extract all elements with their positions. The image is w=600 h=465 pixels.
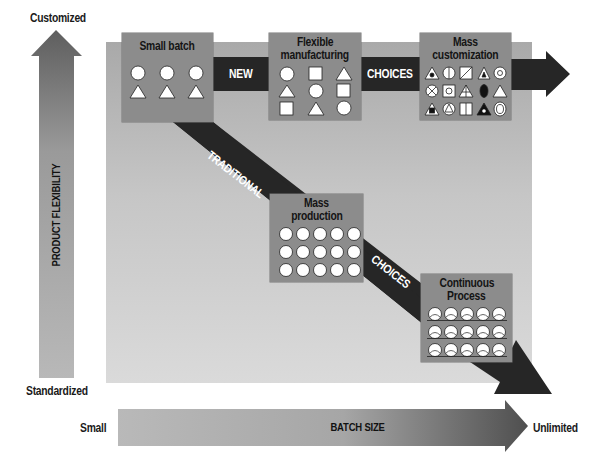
mass-customization-symbols (420, 33, 511, 120)
triangle-icon (130, 85, 146, 98)
mass-production-symbols (270, 194, 363, 282)
flexible-manufacturing-box: Flexible manufacturing (269, 33, 361, 120)
mass-production-box: Mass production (270, 194, 363, 282)
continuous-process-symbols (421, 274, 512, 362)
circle-icon (131, 66, 145, 80)
small-batch-symbols (122, 33, 213, 122)
triangle-icon (188, 85, 204, 98)
continuous-process-box: Continuous Process (421, 274, 512, 362)
circle-icon (160, 66, 174, 80)
triangle-icon (159, 85, 175, 98)
band-label-choices-horizontal: CHOICES (367, 67, 413, 81)
mass-customization-box: Mass customization (420, 33, 511, 120)
small-batch-box: Small batch (122, 33, 213, 122)
flexible-manufacturing-symbols (269, 33, 361, 120)
band-label-new: NEW (229, 67, 253, 81)
circle-icon (189, 66, 203, 80)
